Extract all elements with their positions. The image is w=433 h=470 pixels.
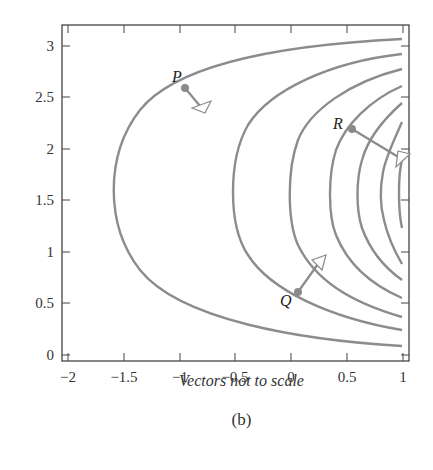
y-tick-label: 0.5: [35, 295, 54, 311]
vector-Q: Q: [280, 255, 326, 309]
vectors-note: Vectors not to scale: [25, 372, 433, 390]
contour-plot: −2−1.5−1−0.500.5100.511.522.53 P Q R: [0, 0, 433, 470]
panel-label: (b): [25, 410, 433, 430]
axis-tick-labels: −2−1.5−1−0.500.5100.511.522.53: [35, 38, 407, 385]
arrowhead-icon: [192, 101, 211, 113]
level-curves: [114, 39, 402, 346]
vector-R: R: [332, 115, 410, 167]
y-tick-label: 1: [47, 244, 55, 260]
label-P: P: [171, 68, 182, 85]
point-Q: [294, 288, 302, 296]
y-tick-label: 2.5: [35, 89, 54, 105]
y-tick-label: 2: [47, 141, 55, 157]
point-R: [348, 125, 356, 133]
label-R: R: [332, 115, 343, 132]
level-curve-2: [233, 54, 402, 330]
label-Q: Q: [280, 292, 292, 309]
point-P: [181, 84, 189, 92]
arrowhead-icon: [396, 151, 410, 167]
level-curve-7: [399, 160, 402, 228]
y-tick-label: 3: [47, 38, 55, 54]
y-tick-label: 1.5: [35, 192, 54, 208]
y-tick-label: 0: [47, 347, 55, 363]
